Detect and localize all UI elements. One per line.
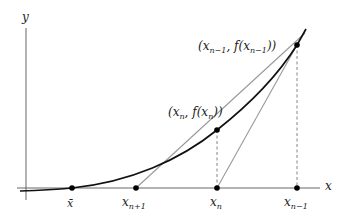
x-n-minus-1-point [294, 185, 300, 191]
x-axis-label: x [325, 179, 332, 193]
secant-method-diagram: y x x̄ xn+1 xn xn−1 (xn, f(xn)) (xn−1, f… [0, 0, 350, 215]
secant-line-xn-to-pn-minus-1 [217, 45, 297, 188]
curve-point-n-minus-1 [294, 42, 300, 48]
x-n-label: xn [210, 195, 222, 211]
x-n-plus-1-label: xn+1 [122, 195, 146, 211]
curve-point-n-minus-1-label: (xn−1, f(xn−1)) [198, 39, 277, 55]
root-label: x̄ [67, 197, 74, 210]
root-point [69, 185, 75, 191]
curve-point-n-label: (xn, f(xn)) [168, 105, 223, 121]
x-n-point [214, 185, 220, 191]
y-axis-label: y [21, 10, 29, 24]
x-n-minus-1-label: xn−1 [284, 195, 308, 211]
x-n-plus-1-point [133, 185, 139, 191]
curve-point-n [214, 127, 220, 133]
